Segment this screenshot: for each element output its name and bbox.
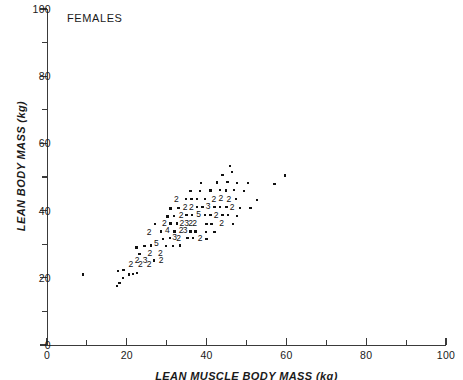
data-point — [165, 245, 167, 247]
scatter-plot-figure: FEMALES 020406080100020406080100 LEAN BO… — [0, 0, 463, 380]
data-point-multi: 2 — [189, 203, 194, 212]
data-point — [231, 171, 233, 173]
y-tick-minor-70 — [42, 109, 47, 110]
data-point-multi: 3 — [206, 202, 211, 211]
data-point — [235, 198, 237, 200]
x-tick-label-20: 20 — [107, 349, 147, 361]
data-point — [122, 269, 124, 271]
x-axis-line — [47, 345, 446, 346]
data-point — [191, 214, 193, 216]
data-point — [236, 215, 238, 217]
y-tick-minor-10 — [42, 311, 47, 312]
data-point — [256, 199, 258, 201]
data-point — [225, 189, 227, 191]
data-point — [201, 206, 203, 208]
y-tick-minor-30 — [42, 244, 47, 245]
data-point — [116, 285, 118, 287]
data-point — [243, 190, 245, 192]
data-point-multi: 2 — [162, 219, 167, 228]
x-tick-minor-50 — [246, 340, 247, 345]
x-axis-title: LEAN MUSCLE BODY MASS (kg) — [47, 370, 446, 380]
data-point — [216, 181, 218, 183]
data-point — [189, 230, 191, 232]
data-point — [204, 198, 206, 200]
data-point — [160, 230, 162, 232]
x-tick-minor-30 — [166, 340, 167, 345]
data-point — [118, 282, 120, 284]
data-point — [233, 189, 235, 191]
data-point — [205, 223, 207, 225]
data-point — [221, 174, 223, 176]
data-point — [200, 182, 202, 184]
data-point — [273, 183, 275, 185]
data-point — [172, 245, 174, 247]
x-tick-label-0: 0 — [27, 349, 67, 361]
data-point — [209, 189, 211, 191]
data-point — [219, 189, 221, 191]
data-point — [169, 237, 171, 239]
y-tick-label-100: 100 — [11, 3, 51, 15]
data-point-multi: 2 — [174, 195, 179, 204]
data-point — [179, 244, 181, 246]
data-point — [225, 206, 227, 208]
data-point — [162, 238, 164, 240]
data-point — [166, 215, 168, 217]
data-point — [247, 182, 249, 184]
data-point — [232, 223, 234, 225]
data-point — [229, 165, 231, 167]
x-tick-100 — [445, 338, 446, 345]
x-tick-label-80: 80 — [346, 349, 386, 361]
x-tick-label-40: 40 — [187, 349, 227, 361]
data-point-multi: 2 — [227, 195, 232, 204]
data-point-multi: 2 — [219, 219, 224, 228]
data-point — [284, 174, 286, 176]
data-point-multi: 2 — [214, 211, 219, 220]
y-tick-minor-90 — [42, 42, 47, 43]
data-point-multi: 5 — [154, 239, 159, 248]
data-point-multi: 5 — [196, 210, 201, 219]
x-tick-minor-10 — [86, 340, 87, 345]
data-point-multi: 2 — [183, 203, 188, 212]
data-point-multi: 2 — [148, 249, 153, 258]
data-point — [194, 230, 196, 232]
data-point — [213, 206, 215, 208]
data-point — [154, 223, 156, 225]
data-point — [189, 190, 191, 192]
data-point — [209, 214, 211, 216]
data-point — [205, 238, 207, 240]
data-point — [176, 222, 178, 224]
x-tick-label-60: 60 — [266, 349, 306, 361]
data-point-multi: 2 — [230, 203, 235, 212]
data-point — [249, 207, 251, 209]
data-point — [210, 223, 212, 225]
data-point — [186, 237, 188, 239]
data-point — [117, 270, 119, 272]
data-point — [173, 230, 175, 232]
data-point — [185, 214, 187, 216]
y-tick-label-20: 20 — [11, 272, 51, 284]
data-point-multi: 2 — [192, 219, 197, 228]
data-point — [169, 207, 171, 209]
data-point — [196, 198, 198, 200]
y-tick-minor-50 — [42, 176, 47, 177]
data-point-multi: 2 — [219, 194, 224, 203]
data-point-multi: 2 — [198, 234, 203, 243]
data-point — [205, 231, 207, 233]
x-tick-60 — [286, 338, 287, 345]
data-point — [227, 214, 229, 216]
x-tick-20 — [126, 338, 127, 345]
data-point — [196, 206, 198, 208]
data-point — [150, 244, 152, 246]
data-point — [219, 206, 221, 208]
x-tick-minor-70 — [326, 340, 327, 345]
data-point — [135, 246, 137, 248]
data-point — [236, 182, 238, 184]
panel-label: FEMALES — [67, 12, 123, 24]
data-point — [122, 277, 124, 279]
data-point — [138, 253, 140, 255]
y-axis-line — [47, 9, 48, 346]
data-point — [204, 214, 206, 216]
data-point-multi: 2 — [158, 249, 163, 258]
data-point — [221, 214, 223, 216]
data-point — [177, 207, 179, 209]
